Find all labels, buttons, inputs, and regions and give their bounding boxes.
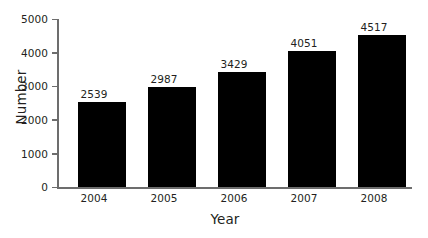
x-axis-title-text: Year xyxy=(211,211,240,227)
y-tick-mark xyxy=(52,153,57,155)
x-tick-label-2007: 2007 xyxy=(268,192,340,204)
bar-value-label-2006: 3429 xyxy=(198,58,270,70)
plot-area xyxy=(58,19,412,187)
x-axis-title: Year xyxy=(0,211,428,227)
bar-chart: 0 1000 2000 3000 4000 5000 2539 2987 342… xyxy=(0,0,428,238)
bar-value-label-2005: 2987 xyxy=(128,73,200,85)
bar-2007 xyxy=(288,51,336,187)
bar-2006 xyxy=(218,72,266,187)
y-tick-label-5000: 5000 xyxy=(8,13,48,25)
bar-2008 xyxy=(358,35,406,187)
bar-value-label-2004: 2539 xyxy=(58,88,130,100)
x-tick-label-2004: 2004 xyxy=(58,192,130,204)
y-tick-mark xyxy=(52,19,57,21)
y-tick-mark xyxy=(52,119,57,121)
bar-value-label-2008: 4517 xyxy=(338,21,410,33)
x-tick-label-2008: 2008 xyxy=(338,192,410,204)
bar-2005 xyxy=(148,87,196,187)
y-axis-title: Number xyxy=(13,37,29,157)
y-tick-mark xyxy=(52,187,57,189)
y-tick-label-0: 0 xyxy=(8,181,48,193)
y-tick-mark xyxy=(52,86,57,88)
x-axis-line xyxy=(57,187,412,189)
x-tick-label-2006: 2006 xyxy=(198,192,270,204)
x-tick-label-2005: 2005 xyxy=(128,192,200,204)
y-tick-mark xyxy=(52,52,57,54)
bar-value-label-2007: 4051 xyxy=(268,37,340,49)
bar-2004 xyxy=(78,102,126,187)
